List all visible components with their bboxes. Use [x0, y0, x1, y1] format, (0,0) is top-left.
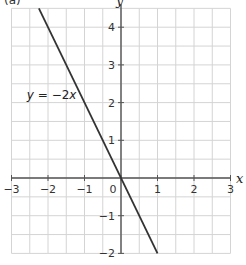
y-tick-label: 3: [108, 59, 115, 72]
x-tick-label: 2: [191, 183, 198, 196]
y-tick-label: 4: [108, 21, 115, 34]
eq-var-x: x: [68, 88, 77, 102]
line-equation-label: y = −2x: [26, 88, 77, 102]
y-tick-label: 2: [108, 97, 115, 110]
y-tick-label: −1: [99, 210, 115, 223]
y-axis-label: y: [115, 0, 124, 8]
x-axis-label: x: [236, 171, 244, 186]
part-label: (a): [4, 0, 21, 7]
x-tick-label: 0: [110, 183, 117, 196]
line-chart: −3−2−101234321−1−2 (a) x y y = −2x: [0, 0, 246, 265]
x-tick-label: 3: [227, 183, 234, 196]
y-tick-label: 1: [108, 134, 115, 147]
eq-rest: = −2: [34, 88, 69, 102]
y-tick-label: −2: [99, 247, 115, 260]
x-tick-label: −3: [3, 183, 19, 196]
x-tick-label: −1: [76, 183, 92, 196]
x-tick-label: −2: [40, 183, 56, 196]
x-tick-label: 1: [154, 183, 161, 196]
